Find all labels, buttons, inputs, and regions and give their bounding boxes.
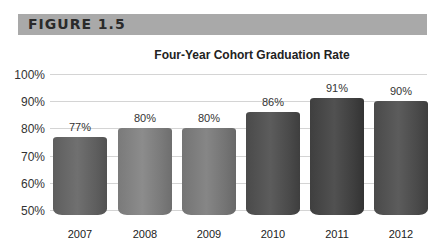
gridline [50, 101, 427, 102]
bar-2007 [53, 137, 107, 215]
bar-value-label: 77% [53, 121, 107, 133]
bar-2011 [310, 98, 364, 215]
bar-2010 [246, 112, 300, 215]
x-axis-tick-label: 2011 [310, 228, 364, 240]
x-axis-tick-label: 2009 [182, 228, 236, 240]
x-axis-tick-label: 2007 [53, 228, 107, 240]
y-axis-tick-label: 100% [0, 68, 45, 82]
bar-value-label: 80% [118, 112, 172, 124]
bar-chart: 100%90%80%70%60%50%77%200780%200880%2009… [0, 0, 444, 252]
bar-2012 [374, 101, 428, 215]
bar-2008 [118, 128, 172, 215]
y-axis-tick-label: 60% [0, 177, 45, 191]
y-axis-tick-label: 70% [0, 150, 45, 164]
x-axis-tick-label: 2008 [118, 228, 172, 240]
x-axis-tick-label: 2010 [246, 228, 300, 240]
y-axis-tick-label: 50% [0, 204, 45, 218]
gridline [50, 74, 427, 75]
bar-value-label: 91% [310, 82, 364, 94]
y-axis-tick-label: 90% [0, 95, 45, 109]
x-axis-tick-label: 2012 [374, 228, 428, 240]
bar-2009 [182, 128, 236, 215]
bar-value-label: 86% [246, 96, 300, 108]
y-axis-tick-label: 80% [0, 122, 45, 136]
bar-value-label: 90% [374, 85, 428, 97]
bar-value-label: 80% [182, 112, 236, 124]
